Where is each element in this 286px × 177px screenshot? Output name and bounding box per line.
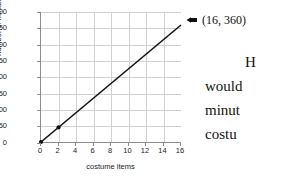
x-axis-title: costume items bbox=[40, 162, 181, 171]
ytick-mark-100 bbox=[37, 110, 40, 111]
xtick-label-10: 10 bbox=[120, 147, 136, 155]
ytick-mark-150 bbox=[37, 94, 40, 95]
body-text: H would minut costu bbox=[205, 50, 286, 146]
xtick-label-8: 8 bbox=[102, 147, 118, 155]
body-text-line-1: H bbox=[205, 50, 286, 74]
ytick-mark-200 bbox=[37, 77, 40, 78]
body-text-line-2: would bbox=[205, 74, 286, 98]
arrow-left-icon bbox=[186, 15, 200, 25]
ytick-label-0: 0 bbox=[3, 139, 7, 147]
plot-area bbox=[40, 12, 181, 143]
xtick-label-14: 14 bbox=[155, 147, 171, 155]
ytick-mark-350 bbox=[37, 28, 40, 29]
chart-page: 400 350 300 250 200 150 100 50 0 0 2 4 6… bbox=[0, 0, 286, 177]
ytick-mark-300 bbox=[37, 45, 40, 46]
series-line bbox=[41, 12, 182, 143]
ytick-mark-400 bbox=[37, 12, 40, 13]
xtick-label-16: 16 bbox=[172, 147, 188, 155]
y-axis-title: number of minutes bbox=[0, 0, 3, 56]
ytick-label-200: 200 bbox=[0, 73, 7, 81]
xtick-label-12: 12 bbox=[137, 147, 153, 155]
xtick-label-0: 0 bbox=[32, 147, 48, 155]
body-text-line-3: minut bbox=[205, 98, 286, 122]
ytick-label-50: 50 bbox=[0, 122, 7, 130]
xtick-label-4: 4 bbox=[67, 147, 83, 155]
annotation-callout: (16, 360) bbox=[186, 14, 246, 26]
xtick-label-2: 2 bbox=[50, 147, 66, 155]
ytick-mark-250 bbox=[37, 61, 40, 62]
annotation-label: (16, 360) bbox=[202, 14, 246, 26]
ytick-label-150: 150 bbox=[0, 90, 7, 98]
xtick-label-6: 6 bbox=[85, 147, 101, 155]
ytick-mark-50 bbox=[37, 126, 40, 127]
body-text-line-4: costu bbox=[205, 122, 286, 146]
data-point-1 bbox=[56, 125, 60, 129]
line-chart: 400 350 300 250 200 150 100 50 0 0 2 4 6… bbox=[0, 0, 190, 177]
ytick-label-100: 100 bbox=[0, 106, 7, 114]
ytick-label-250: 250 bbox=[0, 57, 7, 65]
